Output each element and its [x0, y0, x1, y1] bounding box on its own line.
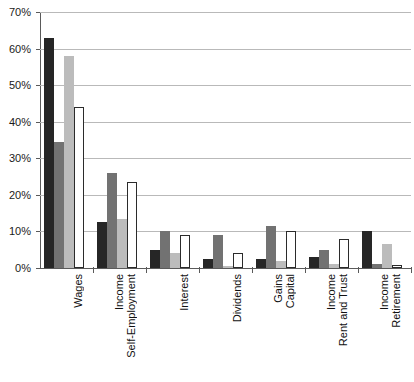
x-axis-label-line: Wages: [72, 274, 84, 308]
bar: [276, 261, 286, 268]
bar-group: [358, 12, 411, 268]
y-tick-label: 50%: [0, 79, 31, 91]
bar: [44, 38, 54, 268]
y-tick-label: 30%: [0, 152, 31, 164]
x-axis-label-line: Gains: [272, 274, 284, 303]
x-axis-label: Rent and TrustIncome: [309, 274, 349, 380]
x-axis-label: CapitalGains: [256, 274, 296, 380]
bar: [392, 265, 402, 268]
gridline: [40, 268, 411, 269]
x-axis-label-line: Retirement: [390, 274, 402, 328]
bar: [170, 253, 180, 268]
bar: [382, 244, 392, 268]
bar-chart: 0%10%20%30%40%50%60%70% WagesSelf-Employ…: [0, 0, 414, 382]
x-tick-mark: [411, 267, 412, 273]
bar: [339, 239, 349, 268]
x-axis-label: RetirementIncome: [362, 274, 402, 380]
y-tick-label: 0%: [0, 262, 31, 274]
x-axis-label-line: Income: [325, 274, 337, 310]
bar: [372, 264, 382, 268]
y-tick-label: 10%: [0, 225, 31, 237]
bar-group: [252, 12, 305, 268]
bar: [160, 231, 170, 268]
x-axis-label-line: Self-Employment: [125, 274, 137, 358]
x-axis-label-line: Income: [378, 274, 390, 310]
bar: [223, 266, 233, 268]
bar: [329, 264, 339, 268]
bar: [150, 250, 160, 268]
bar: [74, 107, 84, 268]
x-axis-label-line: Rent and Trust: [337, 274, 349, 346]
bar-group: [305, 12, 358, 268]
bar: [127, 182, 137, 268]
y-tick-label: 40%: [0, 116, 31, 128]
x-axis-label: Interest: [150, 274, 190, 380]
bar: [117, 219, 127, 268]
x-axis-label-line: Dividends: [231, 274, 243, 322]
x-axis-labels: WagesSelf-EmploymentIncomeInterestDivide…: [40, 274, 411, 380]
x-axis-label: Self-EmploymentIncome: [97, 274, 137, 380]
bar: [286, 231, 296, 268]
bar: [54, 142, 64, 268]
y-tick-label: 60%: [0, 43, 31, 55]
bar: [107, 173, 117, 268]
bar-group: [199, 12, 252, 268]
bar: [309, 257, 319, 268]
plot-area: [40, 12, 411, 268]
bar: [362, 231, 372, 268]
x-axis-label: Wages: [44, 274, 84, 380]
bar-group: [40, 12, 93, 268]
x-axis-label: Dividends: [203, 274, 243, 380]
x-axis-label-line: Income: [113, 274, 125, 310]
bar: [213, 235, 223, 268]
bar: [266, 226, 276, 268]
y-tick-label: 70%: [0, 6, 31, 18]
bar: [233, 253, 243, 268]
bar: [319, 250, 329, 268]
bar: [180, 235, 190, 268]
x-axis-label-line: Interest: [178, 274, 190, 311]
bar: [64, 56, 74, 268]
bar: [256, 259, 266, 268]
y-tick-label: 20%: [0, 189, 31, 201]
bar: [203, 259, 213, 268]
bar: [97, 222, 107, 268]
x-axis-label-line: Capital: [284, 274, 296, 308]
bar-group: [146, 12, 199, 268]
bar-group: [93, 12, 146, 268]
